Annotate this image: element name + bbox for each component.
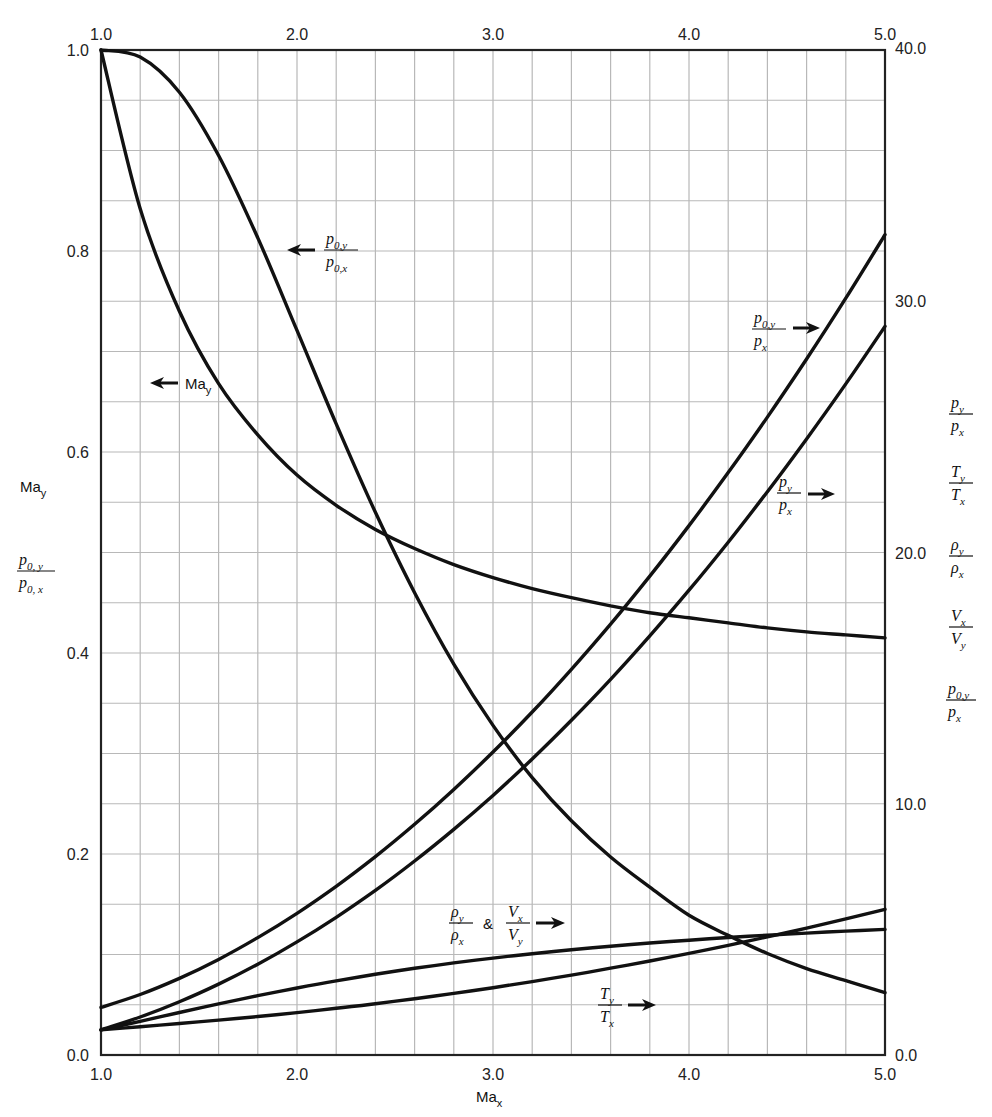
arrow-left-icon — [150, 377, 178, 389]
arrow-right-icon — [536, 917, 565, 929]
fraction-denominator: px — [950, 417, 964, 438]
x-axis-title: Max — [476, 1088, 503, 1109]
fraction-denominator: px — [778, 496, 792, 517]
y-tick-right: 10.0 — [895, 796, 926, 813]
label-py-px: pypx — [777, 473, 801, 517]
y-tick-left: 0.8 — [67, 243, 89, 260]
arrow-right-icon — [808, 488, 835, 500]
arrow-left-icon — [287, 244, 315, 256]
fraction-numerator: Ty — [951, 463, 965, 484]
fraction-numerator: py — [950, 394, 964, 415]
fraction-numerator: p0,y — [753, 309, 775, 330]
x-tick-top: 2.0 — [286, 26, 308, 43]
arrow-right-icon — [628, 999, 656, 1011]
grid-lines — [101, 50, 885, 1055]
y-tick-left: 0.2 — [67, 846, 89, 863]
fraction-denominator: Tx — [951, 486, 965, 507]
right-axis-title-v-ratio: VxVy — [949, 607, 973, 651]
fraction-denominator: Vy — [508, 926, 523, 947]
fraction-denominator: Tx — [600, 1008, 614, 1029]
y-tick-left: 0.6 — [67, 444, 89, 461]
fraction-numerator: py — [778, 473, 792, 494]
right-axis-title-p-ratio: pypx — [949, 394, 973, 438]
fraction-numerator: p0,y — [947, 680, 969, 701]
label-p0y-px: p0,ypx — [752, 309, 786, 353]
fraction-denominator: Vy — [951, 630, 966, 651]
x-tick-bottom: 3.0 — [482, 1066, 504, 1083]
fraction-numerator: ρy — [950, 536, 964, 557]
fraction-denominator: p0, x — [18, 574, 43, 595]
x-tick-bottom: 2.0 — [286, 1066, 308, 1083]
fraction-denominator: ρx — [950, 559, 964, 580]
x-tick-top: 1.0 — [90, 26, 112, 43]
y-tick-right: 0.0 — [895, 1047, 917, 1064]
fraction-numerator: Vx — [508, 903, 523, 924]
axis-tick-labels: 1.02.03.04.05.01.02.03.04.05.00.00.20.40… — [67, 26, 926, 1083]
right-axis-title-rho-ratio: ρyρx — [949, 536, 973, 580]
x-tick-top: 4.0 — [678, 26, 700, 43]
fraction-denominator: px — [947, 703, 961, 724]
label-ampersand: & — [483, 915, 493, 932]
fraction-denominator: ρx — [450, 926, 464, 947]
y-tick-left: 0.4 — [67, 645, 89, 662]
left-axis-title-may: May — [20, 478, 47, 499]
label-rho-ratio: ρyρx — [449, 903, 473, 947]
label-may: May — [185, 375, 212, 396]
x-tick-top: 5.0 — [874, 26, 896, 43]
x-tick-bottom: 4.0 — [678, 1066, 700, 1083]
right-axis-title-p0-px-ratio: p0,ypx — [946, 680, 976, 724]
x-tick-bottom: 5.0 — [874, 1066, 896, 1083]
y-tick-left: 1.0 — [67, 42, 89, 59]
label-v-ratio: VxVy — [506, 903, 530, 947]
right-axis-title-t-ratio: TyTx — [949, 463, 973, 507]
left-axis-title-p0-ratio: p0, yp0, x — [17, 551, 55, 595]
y-tick-right: 30.0 — [895, 293, 926, 310]
y-tick-right: 40.0 — [895, 40, 926, 57]
y-tick-left: 0.0 — [67, 1047, 89, 1064]
fraction-numerator: Vx — [951, 607, 966, 628]
label-p0y-p0x: p0,yp0,x — [324, 230, 358, 274]
x-tick-bottom: 1.0 — [90, 1066, 112, 1083]
y-tick-right: 20.0 — [895, 545, 926, 562]
fraction-numerator: Ty — [600, 985, 614, 1006]
normal-shock-chart: 1.02.03.04.05.01.02.03.04.05.00.00.20.40… — [0, 0, 992, 1117]
fraction-numerator: p0, y — [18, 551, 43, 572]
x-tick-top: 3.0 — [482, 26, 504, 43]
fraction-denominator: px — [753, 332, 767, 353]
fraction-numerator: ρy — [450, 903, 464, 924]
